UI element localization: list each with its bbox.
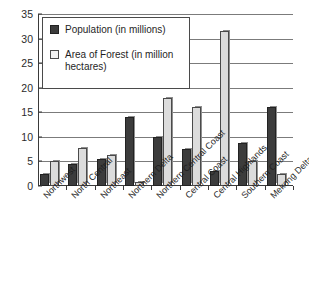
bar-population: [40, 174, 49, 186]
y-tick-mark: [38, 186, 42, 187]
y-tick-label: 20: [3, 82, 33, 93]
legend-label-forest: Area of Forest (in million hectares): [65, 49, 182, 73]
x-axis-labels: NorthwestNorth CentralNortheastNorthern …: [0, 188, 309, 293]
y-tick-label: 15: [3, 107, 33, 118]
y-tick-mark: [38, 136, 42, 137]
chart-legend: Population (in millions) Area of Forest …: [42, 17, 190, 89]
y-tick-mark: [38, 161, 42, 162]
bar-chart: 05101520253035 NorthwestNorth CentralNor…: [0, 0, 309, 293]
y-tick-mark: [38, 38, 42, 39]
y-tick-label: 10: [3, 132, 33, 143]
y-tick-label: 5: [3, 156, 33, 167]
legend-swatch-population-icon: [50, 25, 59, 34]
y-tick-mark: [38, 63, 42, 64]
y-tick-mark: [38, 87, 42, 88]
y-axis: 05101520253035: [0, 14, 33, 186]
y-tick-mark: [38, 112, 42, 113]
y-tick-mark: [38, 14, 42, 15]
legend-swatch-forest-icon: [50, 50, 59, 59]
bar-forest-area: [163, 98, 172, 186]
y-tick-label: 25: [3, 58, 33, 69]
y-tick-label: 30: [3, 33, 33, 44]
y-tick-label: 35: [3, 9, 33, 20]
legend-item-population: Population (in millions): [50, 24, 182, 36]
legend-item-forest: Area of Forest (in million hectares): [50, 49, 182, 73]
legend-label-population: Population (in millions): [65, 24, 166, 36]
